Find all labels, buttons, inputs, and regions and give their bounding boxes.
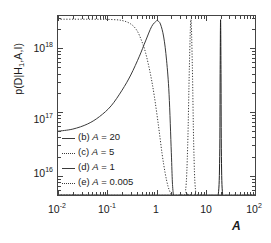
x-tick-major <box>255 190 256 195</box>
legend-prefix: (e) <box>78 176 90 187</box>
x-tick-minor <box>96 16 97 19</box>
y-tick-minor <box>252 51 255 52</box>
y-tick-minor <box>252 131 255 132</box>
x-tick-minor <box>244 192 245 195</box>
y-tick-exponent: 18 <box>45 41 53 48</box>
x-tick-minor <box>82 16 83 19</box>
x-tick-minor <box>152 16 153 19</box>
y-tick-minor <box>252 67 255 68</box>
x-tick-minor <box>88 192 89 195</box>
y-tick-minor <box>58 126 61 127</box>
y-tick-minor <box>252 74 255 75</box>
y-tick-minor <box>58 157 61 158</box>
legend-eq: = <box>101 146 107 157</box>
x-tick-minor <box>180 192 181 195</box>
y-tick-mantissa: 10 <box>34 42 46 54</box>
x-tick-minor <box>244 16 245 19</box>
x-tick-minor <box>100 16 101 19</box>
y-tick-minor <box>252 118 255 119</box>
y-tick-minor <box>252 54 255 55</box>
y-tick-major <box>250 112 255 113</box>
x-tick-minor <box>103 16 104 19</box>
y-tick-minor <box>58 62 61 63</box>
legend-line-sample-c <box>62 153 75 154</box>
x-tick-minor <box>229 16 230 19</box>
y-tick-minor <box>252 179 255 180</box>
y-tick-minor <box>58 118 61 119</box>
x-tick-minor <box>105 192 106 195</box>
y-tick-minor <box>252 137 255 138</box>
x-tick-minor <box>186 16 187 19</box>
y-tick-minor <box>58 58 61 59</box>
y-tick-major <box>250 176 255 177</box>
y-tick-minor <box>58 186 61 187</box>
y-tick-minor <box>252 82 255 83</box>
x-tick-minor <box>191 16 192 19</box>
x-tick-exponent: 2 <box>258 202 262 209</box>
x-tick-minor <box>221 192 222 195</box>
x-tick-minor <box>88 16 89 19</box>
x-tick-minor <box>229 192 230 195</box>
legend-label-d: (d) A = 1 <box>78 161 115 172</box>
y-tick-minor <box>252 186 255 187</box>
x-tick-minor <box>152 192 153 195</box>
y-tick-minor <box>58 122 61 123</box>
legend-value: 1 <box>109 161 114 172</box>
y-tick-minor <box>252 18 255 19</box>
y-tick-minor <box>58 137 61 138</box>
x-tick-major <box>206 16 207 21</box>
y-tick-minor <box>252 122 255 123</box>
x-tick-major <box>206 190 207 195</box>
x-tick-minor <box>240 16 241 19</box>
y-tick-minor <box>252 29 255 30</box>
y-tick-mantissa: 10 <box>34 113 46 125</box>
x-tick-minor <box>180 16 181 19</box>
y-tick-exponent: 17 <box>45 112 53 119</box>
x-tick-label-1e-2: 10-2 <box>37 202 77 215</box>
x-tick-minor <box>82 192 83 195</box>
y-tick-minor <box>252 62 255 63</box>
x-tick-minor <box>149 192 150 195</box>
y-tick-exponent: 16 <box>45 166 53 173</box>
x-tick-minor <box>146 16 147 19</box>
x-tick-minor <box>131 192 132 195</box>
y-tick-minor <box>58 74 61 75</box>
x-tick-minor <box>122 16 123 19</box>
legend-eq: = <box>101 131 107 142</box>
legend-prefix: (b) <box>78 131 90 142</box>
legend-item-e: (e) A = 0.005 <box>62 176 162 191</box>
legend-var: A <box>92 146 98 157</box>
x-tick-minor <box>137 192 138 195</box>
x-tick-minor <box>122 192 123 195</box>
x-tick-minor <box>221 16 222 19</box>
legend-prefix: (c) <box>78 146 89 157</box>
x-tick-mantissa: 1 <box>153 203 159 215</box>
x-tick-major <box>157 16 158 21</box>
y-tick-major <box>250 48 255 49</box>
x-tick-minor <box>198 192 199 195</box>
y-tick-text: 1017 <box>19 112 53 125</box>
x-tick-minor <box>103 192 104 195</box>
x-tick-minor <box>154 192 155 195</box>
legend-item-c: (c) A = 5 <box>62 146 162 161</box>
x-tick-minor <box>204 192 205 195</box>
x-tick-mantissa: 10 <box>48 203 60 215</box>
legend-label-c: (c) A = 5 <box>78 146 114 157</box>
legend-eq: = <box>101 176 107 187</box>
y-tick-minor <box>58 179 61 180</box>
x-tick-minor <box>204 16 205 19</box>
y-tick-major <box>58 112 63 113</box>
y-tick-minor <box>58 51 61 52</box>
legend-line-sample-d <box>62 168 75 169</box>
legend-eq: = <box>101 161 107 172</box>
y-tick-minor <box>58 145 61 146</box>
x-tick-minor <box>131 16 132 19</box>
y-tick-minor <box>58 190 61 191</box>
legend-var: A <box>92 161 98 172</box>
x-tick-minor <box>96 192 97 195</box>
x-tick-exponent: -1 <box>110 202 116 209</box>
x-tick-mantissa: 10 <box>200 203 212 215</box>
x-tick-minor <box>198 16 199 19</box>
x-tick-minor <box>154 16 155 19</box>
y-tick-minor <box>58 115 61 116</box>
